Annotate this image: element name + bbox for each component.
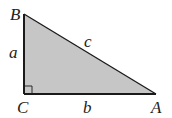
right-triangle-diagram: B C A a b c: [0, 0, 172, 118]
side-label-c: c: [84, 32, 92, 51]
vertex-label-c: C: [17, 98, 29, 117]
vertex-label-b: B: [10, 5, 21, 24]
side-label-a: a: [9, 43, 18, 62]
vertex-label-a: A: [150, 98, 162, 117]
side-label-b: b: [83, 98, 92, 117]
